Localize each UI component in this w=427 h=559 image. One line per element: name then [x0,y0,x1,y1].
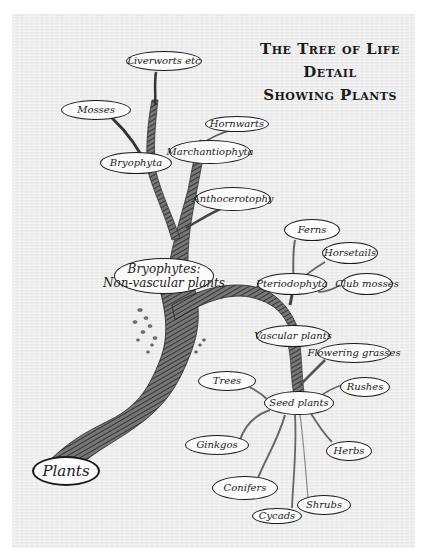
node-label-line2: Non-vascular plants [103,276,225,290]
node-hornwarts: Hornwarts [205,116,269,132]
node-label: Shrubs [306,499,342,511]
node-bryophyta: Bryophyta [100,152,172,174]
node-cycads: Cycads [252,508,302,524]
cycads-branch [292,415,296,508]
shrubs-branch [300,415,308,498]
node-label: Conifers [224,482,267,494]
node-label: Trees [213,375,241,387]
node-label: Bryophyta [110,157,162,169]
title-line-2: Detail [240,61,420,84]
node-label: Club mosses [335,278,399,290]
node-pteridophyta: Pteriodophyta [257,273,327,295]
node-label: Mosses [77,104,115,116]
title-line-3: Showing Plants [240,84,420,107]
herbs-branch [310,412,332,442]
node-herbs: Herbs [326,441,372,461]
node-shrubs: Shrubs [297,495,351,515]
node-label: Ginkgos [196,439,237,451]
diagram-title: The Tree of Life Detail Showing Plants [240,38,420,107]
node-ferns: Ferns [284,219,340,241]
liverworts-branch [155,72,156,105]
flowering-branch [300,360,325,385]
node-trees: Trees [198,371,256,391]
node-rushes: Rushes [340,377,390,397]
node-vascular-plants: Vascular plants [256,325,330,347]
node-label: Horsetails [324,247,376,259]
node-club-mosses: Club mosses [341,273,393,295]
node-horsetails: Horsetails [322,242,378,264]
node-mosses: Mosses [61,100,131,120]
node-label: Ferns [298,224,327,236]
node-label: Pteriodophyta [256,278,328,290]
node-label: Hornwarts [210,118,264,130]
node-plants: Plants [32,456,100,486]
ginkgos-branch [240,410,270,440]
node-label: Cycads [259,510,295,522]
node-label: Seed plants [269,396,328,410]
node-label-line1: Bryophytes: [103,262,225,276]
node-anthocerotophy: Anthocerotophy [195,187,271,211]
node-flowering-grasses: Flowering grasses [317,343,391,363]
node-label: Plants [42,465,89,477]
node-label: Liverworts etc [127,55,200,67]
node-label: Anthocerotophy [193,193,274,205]
title-line-1: The Tree of Life [240,38,420,61]
node-label: Rushes [347,381,384,393]
node-liverworts: Liverworts etc [126,51,202,71]
node-label: Herbs [334,445,365,457]
node-label: Flowering grasses [307,347,400,359]
node-ginkgos: Ginkgos [185,435,249,455]
node-conifers: Conifers [212,476,278,500]
node-marchantiophyta: Marchantiophyta [169,140,251,164]
node-seed-plants: Seed plants [264,391,334,415]
node-bryophytes-nonvascular: Bryophytes: Non-vascular plants [114,258,214,294]
node-label: Vascular plants [254,329,332,343]
node-label: Marchantiophyta [166,146,253,158]
conifers-branch [258,415,285,478]
